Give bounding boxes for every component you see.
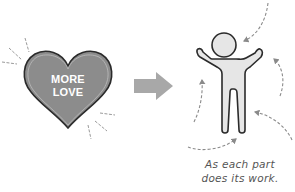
dashed-arrow-left-icon bbox=[194, 80, 202, 122]
right-arrow-icon bbox=[134, 72, 173, 100]
heart-label-line1: MORE bbox=[40, 73, 96, 86]
caption-line2: does its work. bbox=[190, 171, 290, 185]
heart-label: MORE LOVE bbox=[40, 73, 96, 99]
illustration: MORE LOVE As each part does its work. bbox=[0, 0, 295, 192]
dashed-arrow-right-lower-icon bbox=[255, 112, 292, 140]
dashed-arrow-right-upper-icon bbox=[274, 59, 283, 96]
dashed-arrow-top-icon bbox=[244, 3, 268, 41]
dashed-arrow-bottom-icon bbox=[188, 139, 236, 150]
caption-line1: As each part bbox=[190, 157, 290, 171]
person-figure-icon bbox=[197, 33, 262, 133]
caption: As each part does its work. bbox=[190, 157, 290, 185]
heart-label-line2: LOVE bbox=[40, 86, 96, 99]
